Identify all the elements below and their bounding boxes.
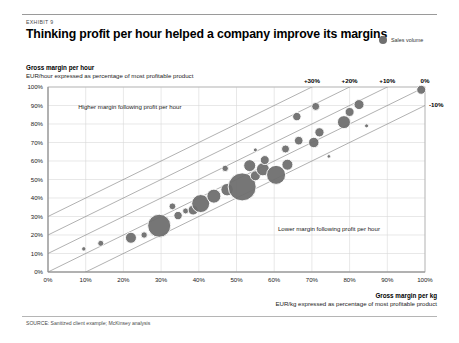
x-tick-label: 0%	[44, 276, 53, 283]
bubble-point	[207, 189, 221, 203]
bubble-series	[82, 85, 426, 251]
slide-canvas: EXHIBIT 9 Thinking profit per hour helpe…	[0, 0, 459, 343]
y-tick-label: 60%	[31, 157, 44, 164]
y-tick-label: 40%	[31, 194, 44, 201]
bubble-point	[222, 165, 228, 171]
x-tick-label: 80%	[343, 276, 356, 283]
bubble-point	[188, 205, 198, 215]
y-tick-label: 0%	[34, 268, 43, 275]
x-tick-label: 90%	[381, 276, 394, 283]
bubble-point	[309, 137, 319, 147]
y-tick-label: 50%	[31, 176, 44, 183]
reference-line-label: +20%	[342, 77, 358, 84]
bubble-point	[141, 232, 147, 238]
bubble-point	[282, 159, 293, 170]
plot-frame	[48, 87, 425, 272]
legend-marker-sales-volume	[379, 36, 387, 44]
x-axis-title: Gross margin per kg	[375, 292, 437, 299]
bubble-point	[312, 102, 320, 110]
bubble-point	[417, 85, 426, 94]
plot-annotations: Higher margin following profit per hourL…	[78, 103, 380, 232]
reference-line-label: +10%	[379, 77, 395, 84]
bubble-point	[294, 136, 303, 145]
y-tick-label: 100%	[27, 83, 43, 90]
x-tick-label: 40%	[193, 276, 206, 283]
plot-annotation: Lower margin following profit per hour	[278, 225, 380, 232]
exhibit-label: EXHIBIT 9	[26, 19, 54, 25]
bubble-point	[98, 240, 104, 246]
y-tick-label: 70%	[31, 139, 44, 146]
bubble-point	[125, 232, 136, 243]
bubble-point	[244, 160, 256, 172]
reference-line-labels: +30%+20%+10%0%-10%	[304, 77, 444, 108]
x-tick-label: 10%	[80, 276, 93, 283]
source-note: SOURCE: Sanitized client example; McKins…	[26, 320, 150, 326]
y-tick-label: 10%	[31, 250, 44, 257]
reference-line-label: -10%	[429, 101, 444, 108]
axis-tick-labels: 0%10%20%30%40%50%60%70%80%90%100%0%10%20…	[27, 83, 433, 283]
bubble-point	[82, 247, 86, 251]
page-title: Thinking profit per hour helped a compan…	[26, 27, 387, 41]
grid-lines	[48, 87, 425, 272]
reference-line-label: +30%	[304, 77, 320, 84]
bubble-point	[345, 107, 354, 116]
bubble-point	[221, 183, 233, 195]
y-tick-label: 80%	[31, 120, 44, 127]
bubble-point	[169, 203, 176, 210]
y-axis-title: Gross margin per hour	[26, 64, 94, 71]
bubble-point	[282, 145, 290, 153]
y-tick-label: 30%	[31, 213, 44, 220]
y-axis-subtitle: EUR/hour expressed as percentage of most…	[26, 72, 193, 79]
x-tick-label: 20%	[117, 276, 130, 283]
bubble-point	[365, 124, 369, 128]
x-tick-label: 70%	[306, 276, 319, 283]
header-divider	[22, 14, 437, 15]
bubble-point	[267, 165, 286, 184]
y-tick-label: 20%	[31, 231, 44, 238]
bubble-point	[354, 100, 364, 110]
plot-annotation: Higher margin following profit per hour	[78, 103, 181, 110]
x-tick-label: 60%	[268, 276, 281, 283]
legend: Sales volume	[379, 36, 423, 44]
bubble-point	[228, 173, 256, 201]
y-tick-label: 90%	[31, 102, 44, 109]
bubble-point	[260, 156, 269, 165]
bubble-point	[337, 116, 350, 129]
legend-label-sales-volume: Sales volume	[391, 37, 423, 43]
x-axis-subtitle: EUR/kg expressed as percentage of most p…	[275, 300, 437, 307]
bubble-point	[250, 171, 260, 181]
bubble-point	[315, 128, 324, 137]
bubble-point	[327, 155, 331, 159]
footer-divider	[22, 316, 437, 317]
x-tick-label: 30%	[155, 276, 168, 283]
x-tick-label: 100%	[417, 276, 433, 283]
bubble-point	[192, 195, 210, 213]
bubble-point	[148, 214, 171, 237]
reference-line-label: 0%	[421, 77, 430, 84]
bubble-point	[256, 163, 269, 176]
bubble-point	[253, 148, 257, 152]
bubble-point	[174, 211, 182, 219]
bubble-point	[293, 112, 301, 120]
reference-lines	[48, 32, 425, 291]
bubble-point	[183, 208, 189, 214]
x-tick-label: 50%	[230, 276, 243, 283]
